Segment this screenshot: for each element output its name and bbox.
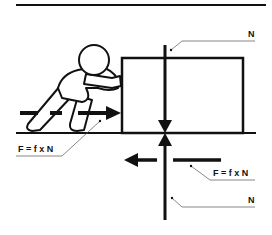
label-friction-ground: F = f x N <box>213 168 248 178</box>
box <box>122 58 243 133</box>
label-normal-bottom: N <box>248 195 255 205</box>
label-normal-top: N <box>248 29 255 39</box>
friction-arrow <box>124 153 221 167</box>
friction-diagram: N F = f x N F = f x N N <box>0 0 272 235</box>
label-friction-push: F = f x N <box>18 144 53 154</box>
